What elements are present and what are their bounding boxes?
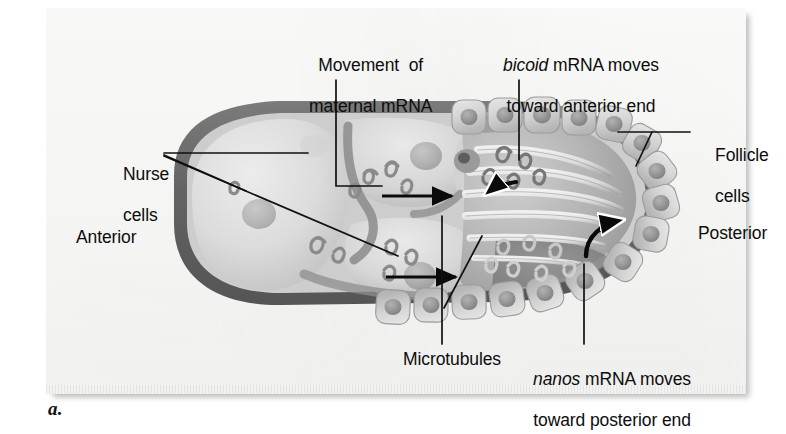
label-bicoid-line2: toward anterior end [507,96,656,116]
figure-caption: a. [48,398,63,420]
nurse-cell-nucleus [242,199,276,229]
label-follicle-cells: Follicle cells [696,125,769,226]
scan-artifact-band [46,385,746,394]
label-anterior: Anterior [76,227,136,247]
label-microtubules: Microtubules [403,349,501,369]
label-nurse-line2: cells [123,205,158,225]
label-follicle-line2: cells [715,186,750,206]
label-movement-of-maternal-mrna: Movement of maternal mRNA [290,35,432,136]
mtoc [454,149,480,173]
label-follicle-line1: Follicle [715,145,769,165]
follicle-cell [451,284,486,319]
follicle-cell [488,280,526,318]
label-nurse-line1: Nurse [123,164,169,184]
figure-panel: Movement of maternal mRNA bicoid mRNA mo… [46,8,746,394]
label-posterior: Posterior [698,223,767,243]
label-bicoid-mrna: bicoid mRNA moves toward anterior end [484,35,659,136]
label-bicoid-rest: mRNA moves [548,55,659,75]
follicle-cell [375,289,411,325]
label-movement-line1: Movement of [318,55,423,75]
label-bicoid-gene-name: bicoid [503,55,548,75]
follicle-cell [452,100,486,134]
follicle-cell [631,214,670,253]
nurse-cell-nucleus [410,142,442,170]
label-nanos-line2: toward posterior end [533,410,691,430]
follicle-cell [414,288,449,323]
label-movement-line2: maternal mRNA [309,96,432,116]
